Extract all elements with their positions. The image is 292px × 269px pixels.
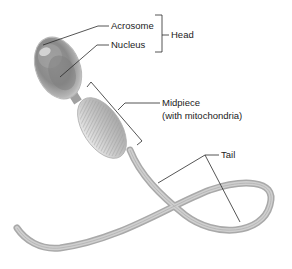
sperm-illustration bbox=[0, 0, 292, 269]
head-bracket bbox=[155, 15, 162, 52]
tail-label: Tail bbox=[221, 149, 235, 161]
head-shape bbox=[26, 30, 91, 106]
nucleus-label: Nucleus bbox=[111, 39, 145, 51]
midpiece-sublabel: (with mitochondria) bbox=[162, 110, 242, 122]
acrosome-label: Acrosome bbox=[111, 20, 154, 32]
tail-shape bbox=[17, 150, 271, 248]
sperm-diagram: Acrosome Nucleus Head Midpiece (with mit… bbox=[0, 0, 292, 269]
midpiece-connector bbox=[118, 103, 160, 110]
head-label: Head bbox=[171, 29, 194, 41]
midpiece-label: Midpiece bbox=[162, 97, 200, 109]
tail-leader-line-1 bbox=[158, 155, 219, 183]
